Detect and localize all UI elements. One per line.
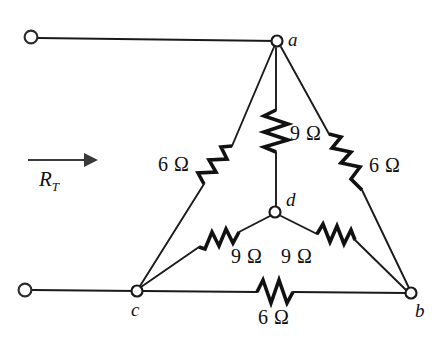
wire-r-c-b-to-b: [293, 292, 406, 293]
resistor-a-d-zigzag: [264, 110, 288, 152]
wire-d-to-r-d-b: [281, 216, 317, 234]
resistor-label-a-d: 9 Ω: [290, 123, 321, 143]
wire-r-c-d-to-c: [141, 247, 199, 287]
lead-top-left-to-node-a: [38, 38, 277, 41]
total-resistance-label: RT: [39, 169, 59, 193]
wire-r-a-c-to-c: [140, 184, 204, 286]
resistor-d-b-zigzag: [317, 224, 355, 244]
rt-arrow-head-icon: [84, 153, 98, 167]
circuit-diagram: a b c d 6 Ω 6 Ω 6 Ω 9 Ω 9 Ω 9 Ω RT: [0, 0, 440, 356]
resistor-a-b-zigzag: [329, 134, 362, 190]
resistor-label-d-b: 9 Ω: [281, 246, 312, 266]
lead-bottom-left-to-node-c: [32, 290, 137, 291]
node-label-d: d: [286, 190, 296, 209]
node-a-terminal-dot: [272, 36, 283, 47]
wire-c-to-r-c-b: [143, 291, 257, 292]
resistor-a-c-zigzag: [198, 146, 232, 184]
resistor-label-a-b: 6 Ω: [369, 155, 400, 175]
resistor-label-c-b: 6 Ω: [258, 307, 289, 327]
node-label-a: a: [288, 30, 298, 49]
node-label-b: b: [415, 301, 425, 320]
node-label-c: c: [131, 300, 139, 319]
terminal-top-left-dot: [25, 31, 38, 44]
terminal-bottom-left-dot: [19, 284, 32, 297]
wire-d-to-r-c-d: [239, 216, 270, 232]
resistor-label-c-d: 9 Ω: [231, 246, 262, 266]
wire-a-to-r-a-b: [281, 47, 329, 134]
wire-r-a-b-to-b: [362, 190, 409, 288]
resistor-label-a-c: 6 Ω: [158, 154, 189, 174]
circuit-schematic-canvas: [0, 0, 440, 356]
rt-subscript: T: [52, 179, 59, 194]
node-c-terminal-dot: [132, 286, 143, 297]
resistor-c-b-zigzag: [257, 280, 293, 303]
node-b-terminal-dot: [406, 288, 417, 299]
node-d-terminal-dot: [270, 207, 281, 218]
rt-symbol: R: [39, 167, 52, 191]
